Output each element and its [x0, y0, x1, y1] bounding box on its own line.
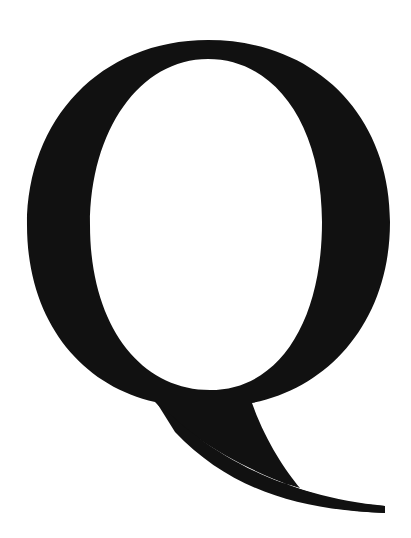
- letter-q-glyph: [0, 0, 411, 538]
